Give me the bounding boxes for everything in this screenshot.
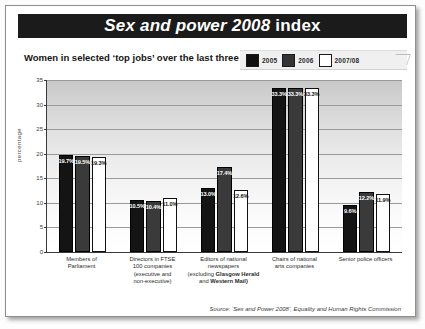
x-label-segment: Parliament [68, 263, 96, 269]
y-axis-label: percentage [16, 128, 22, 162]
bar-group: 19.7%19.5%19.3% [59, 80, 106, 252]
page-title: Sex and power 2008 index [104, 16, 320, 36]
bar-value-label: 10.5% [130, 203, 145, 209]
x-label-segment: (executive and [134, 271, 172, 277]
legend-banner-tail-icon [392, 54, 411, 65]
chart-area: percentage 0510152025303519.7%19.5%19.3%… [18, 76, 407, 276]
x-axis-category-label: Chairs of nationalarts companies [258, 256, 330, 271]
bar-value-label: 11.9% [375, 197, 390, 203]
y-tick-label: 5 [40, 224, 43, 230]
bar-2007-08-4: 33.3% [305, 88, 319, 252]
y-tick-mark [44, 252, 47, 253]
plot-area: 0510152025303519.7%19.5%19.3%10.5%10.4%1… [46, 80, 402, 253]
legend-label-2007-08: 2007/08 [335, 57, 360, 64]
bar-group-bars: 33.3%33.3%33.3% [272, 80, 319, 252]
bar-value-label: 33.3% [272, 91, 287, 97]
legend-swatch-icon-2005 [246, 54, 259, 67]
y-tick-mark [44, 154, 47, 155]
legend-swatch-icon-2006 [282, 54, 295, 67]
bar-value-label: 33.3% [304, 91, 319, 97]
bar-2005-3: 13.0% [201, 188, 215, 252]
bar-2007-08-1: 19.3% [92, 157, 106, 252]
bar-value-label: 12.2% [359, 195, 374, 201]
y-tick-mark [44, 129, 47, 130]
y-tick-mark [44, 178, 47, 179]
x-axis-category-label: Directors in FTSE100 companies(executive… [116, 256, 188, 286]
x-label-segment: Members of [66, 256, 97, 262]
y-tick-mark [44, 80, 47, 81]
y-tick-label: 25 [36, 126, 43, 132]
bar-2006-5: 12.2% [359, 192, 373, 252]
subtitle-legend-row: Women in selected ‘top jobs’ over the la… [18, 50, 407, 72]
y-tick-mark [44, 227, 47, 228]
x-axis-category-label: Senior police officers [329, 256, 401, 263]
y-tick-mark [44, 105, 47, 106]
bar-value-label: 19.5% [75, 159, 90, 165]
bar-value-label: 11.0% [162, 201, 177, 207]
bar-group-bars: 13.0%17.4%12.6% [201, 80, 248, 252]
x-axis-labels: Members ofParliamentDirectors in FTSE100… [46, 256, 401, 302]
legend-swatch-icon-2007-08 [319, 54, 332, 67]
bar-2005-4: 33.3% [272, 88, 286, 252]
bar-group-bars: 9.6%12.2%11.9% [343, 80, 390, 252]
title-emphasis: Sex and power 2008 [104, 16, 270, 35]
bar-value-label: 12.6% [233, 193, 248, 199]
chart-frame: Sex and power 2008 index Women in select… [5, 5, 416, 317]
legend-item-2006: 2006 [282, 54, 313, 67]
x-label-segment: Senior police officers [339, 256, 393, 262]
y-tick-label: 10 [36, 200, 43, 206]
x-label-segment: Editors of national newspapers [200, 256, 246, 269]
x-label-segment: Directors in FTSE [130, 256, 176, 262]
bar-2006-4: 33.3% [288, 88, 302, 252]
x-label-segment: arts companies [275, 263, 314, 269]
y-tick-label: 15 [36, 175, 43, 181]
x-axis-category-label: Editors of national newspapers(excluding… [187, 256, 259, 286]
bar-value-label: 17.4% [217, 170, 232, 176]
legend-item-2007-08: 2007/08 [319, 54, 360, 67]
title-bar: Sex and power 2008 index [18, 14, 407, 38]
bar-2005-1: 19.7% [59, 155, 73, 252]
bar-2006-3: 17.4% [217, 167, 231, 253]
source-attribution: Source: ‘Sex and Power 2008’, Equality a… [210, 306, 401, 312]
y-tick-mark [44, 203, 47, 204]
legend-label-2006: 2006 [298, 57, 313, 64]
bar-group: 13.0%17.4%12.6% [201, 80, 248, 252]
legend-label-2005: 2005 [262, 57, 277, 64]
bar-2007-08-5: 11.9% [376, 194, 390, 252]
bar-value-label: 33.3% [288, 91, 303, 97]
y-tick-label: 30 [36, 102, 43, 108]
bar-2006-1: 19.5% [75, 156, 89, 252]
x-axis-category-label: Members ofParliament [45, 256, 117, 271]
bar-value-label: 19.3% [91, 160, 106, 166]
bar-group-bars: 10.5%10.4%11.0% [130, 80, 177, 252]
x-label-segment: Chairs of national [272, 256, 317, 262]
x-label-segment: non-executive) [133, 278, 171, 284]
x-label-segment: (excluding [188, 271, 216, 277]
chart-legend: 2005 2006 2007/08 [240, 50, 407, 70]
bar-group: 10.5%10.4%11.0% [130, 80, 177, 252]
bar-group-bars: 19.7%19.5%19.3% [59, 80, 106, 252]
x-label-segment: and [199, 278, 210, 284]
y-tick-label: 0 [40, 249, 43, 255]
chart-subtitle: Women in selected ‘top jobs’ over the la… [24, 52, 269, 63]
bar-2007-08-3: 12.6% [234, 190, 248, 252]
bar-2005-2: 10.5% [130, 200, 144, 252]
bar-group: 33.3%33.3%33.3% [272, 80, 319, 252]
bar-value-label: 10.4% [146, 204, 161, 210]
bar-group: 9.6%12.2%11.9% [343, 80, 390, 252]
x-label-segment: Western Mail) [210, 278, 248, 284]
bar-2006-2: 10.4% [146, 201, 160, 252]
legend-item-2005: 2005 [246, 54, 277, 67]
y-tick-label: 20 [36, 151, 43, 157]
bar-value-label: 19.7% [59, 158, 74, 164]
bar-value-label: 13.0% [201, 191, 216, 197]
infographic-page: Sex and power 2008 index Women in select… [0, 0, 425, 329]
x-label-segment: Glasgow Herald [216, 271, 260, 277]
title-plain: index [270, 16, 320, 35]
x-label-segment: 100 companies [133, 263, 172, 269]
bar-value-label: 9.6% [344, 208, 356, 214]
y-tick-label: 35 [36, 77, 43, 83]
bar-2007-08-2: 11.0% [163, 198, 177, 252]
bar-2005-5: 9.6% [343, 205, 357, 252]
